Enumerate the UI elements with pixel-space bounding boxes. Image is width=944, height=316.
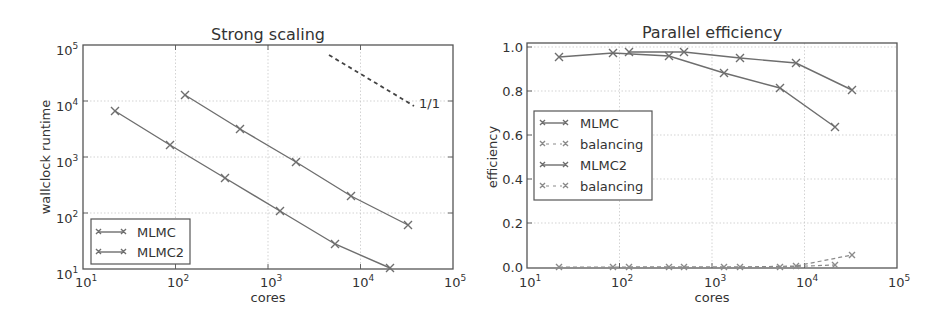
svg-text:103: 103: [260, 273, 282, 290]
svg-text:105: 105: [56, 41, 78, 58]
svg-text:0.2: 0.2: [502, 216, 523, 231]
svg-text:1.0: 1.0: [502, 40, 523, 55]
svg-text:102: 102: [611, 273, 633, 290]
x-tick-labels: 101 102 103 104 105: [519, 273, 910, 290]
x-axis-label: cores: [251, 290, 286, 305]
svg-text:102: 102: [56, 209, 78, 226]
svg-text:101: 101: [75, 273, 97, 290]
svg-text:balancing: balancing: [580, 137, 643, 152]
svg-text:0.0: 0.0: [502, 260, 523, 275]
svg-text:balancing: balancing: [580, 179, 643, 194]
svg-text:MLMC2: MLMC2: [137, 245, 184, 260]
svg-text:MLMC2: MLMC2: [580, 158, 627, 173]
x-axis-label: cores: [695, 290, 730, 305]
svg-text:101: 101: [519, 273, 541, 290]
y-tick-labels: 0.0 0.2 0.4 0.6 0.8 1.0: [502, 40, 523, 275]
y-axis-label: efficiency: [485, 125, 500, 188]
series-balancing-mlmc2: [626, 252, 855, 270]
figure: Strong scaling 101: [0, 0, 944, 316]
svg-text:104: 104: [56, 97, 79, 114]
chart-title: Parallel efficiency: [642, 23, 782, 42]
x-tick-labels: 101 102 103 104 105: [75, 273, 466, 290]
reference-slope-line: [329, 55, 414, 106]
svg-text:105: 105: [444, 273, 466, 290]
reference-slope-label: 1/1: [419, 96, 440, 111]
svg-text:104: 104: [352, 273, 375, 290]
svg-text:0.6: 0.6: [502, 128, 523, 143]
strong-scaling-chart: Strong scaling 101: [38, 25, 466, 305]
svg-text:105: 105: [888, 273, 910, 290]
parallel-efficiency-chart: Parallel efficiency 101 102 103: [485, 23, 910, 305]
svg-text:0.8: 0.8: [502, 84, 523, 99]
svg-text:102: 102: [167, 273, 189, 290]
y-axis-label: wallclock runtime: [38, 100, 53, 215]
y-tick-labels: 101 102 103 104 105: [56, 41, 79, 282]
legend: MLMC balancing MLMC2 balancing: [534, 111, 652, 200]
legend: MLMC MLMC2: [91, 219, 190, 264]
series-mlmc2: [181, 91, 412, 229]
svg-text:103: 103: [704, 273, 726, 290]
chart-title: Strong scaling: [211, 25, 325, 44]
svg-text:0.4: 0.4: [502, 172, 523, 187]
svg-text:MLMC: MLMC: [137, 225, 176, 240]
svg-text:MLMC: MLMC: [580, 116, 619, 131]
svg-text:103: 103: [56, 153, 78, 170]
svg-text:104: 104: [796, 273, 819, 290]
